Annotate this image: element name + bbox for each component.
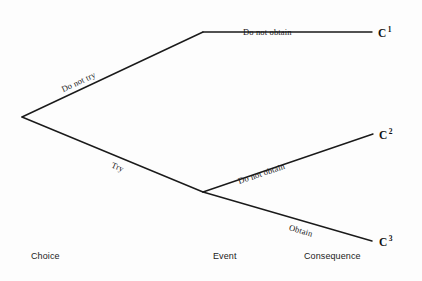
tree-lines [0, 0, 422, 281]
branch-line-obtain [203, 192, 372, 241]
branch-line-lower-do-not-obtain [203, 134, 373, 192]
consequence-superscript-c1: 1 [388, 25, 392, 34]
decision-tree-diagram: Do not try Do not obtain Try Do not obta… [0, 0, 422, 281]
consequence-label-c1: C1 [378, 25, 392, 39]
consequence-symbol-c1: C [378, 27, 386, 39]
branch-line-do-not-try [22, 32, 203, 117]
branch-line-try [22, 117, 203, 192]
column-label-consequence: Consequence [304, 251, 361, 261]
consequence-superscript-c3: 3 [389, 234, 393, 243]
column-label-choice: Choice [31, 251, 60, 261]
consequence-symbol-c2: C [379, 129, 387, 141]
column-label-event: Event [213, 251, 237, 261]
consequence-label-c3: C3 [379, 234, 393, 248]
consequence-superscript-c2: 2 [389, 127, 393, 136]
consequence-label-c2: C2 [379, 127, 393, 141]
consequence-symbol-c3: C [379, 236, 387, 248]
edge-label-upper-do-not-obtain: Do not obtain [243, 27, 292, 37]
